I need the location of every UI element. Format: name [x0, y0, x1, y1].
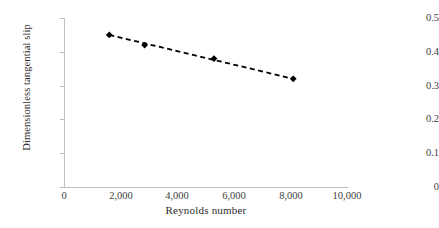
- data-point-marker: [106, 32, 113, 39]
- series-group: [106, 32, 297, 83]
- data-point-marker: [211, 55, 218, 62]
- chart-figure: 0 0.1 0.2 0.3 0.4 0.5 0 2,000 4,000 6,00…: [0, 0, 439, 228]
- data-point-marker: [290, 75, 297, 82]
- series-layer: [0, 0, 439, 228]
- trend-line: [109, 35, 293, 79]
- data-point-marker: [141, 42, 148, 49]
